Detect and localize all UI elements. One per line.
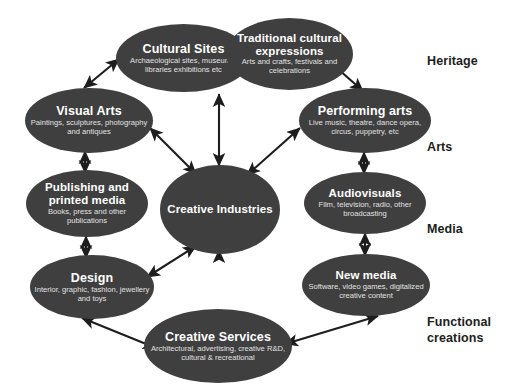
node-traditional-cultural-expressions[interactable]: Traditional cultural expressions Arts an… [226, 18, 353, 90]
category-label-arts: Arts [427, 140, 452, 156]
node-title: Design [71, 271, 113, 285]
node-title: Traditional cultural expressions [226, 32, 353, 58]
node-subtitle: Interior, graphic, fashion, jewellery an… [30, 286, 154, 304]
node-publishing-and-printed-media[interactable]: Publishing and printed media Books, pres… [26, 170, 148, 237]
node-creative-services[interactable]: Creative Services Architectural, adverti… [144, 309, 292, 383]
node-design[interactable]: Design Interior, graphic, fashion, jewel… [30, 255, 154, 319]
node-performing-arts[interactable]: Performing arts Live music, theatre, dan… [299, 88, 431, 153]
node-title: New media [336, 269, 397, 282]
node-title: Creative Services [165, 330, 271, 344]
node-title: Visual Arts [56, 104, 122, 118]
edge-performing-arts-center [247, 128, 300, 175]
node-creative-industries-center[interactable]: Creative Industries [160, 165, 280, 254]
node-title: Cultural Sites [143, 42, 225, 56]
node-title: Audiovisuals [329, 187, 402, 200]
node-title: Performing arts [318, 104, 413, 118]
node-subtitle: Books, press and other publications [26, 208, 148, 226]
node-visual-arts[interactable]: Visual Arts Paintings, sculptures, photo… [25, 88, 153, 153]
edge-new-media-creative-services [285, 316, 378, 344]
edge-visual-arts-cultural-sites [84, 59, 119, 88]
edge-design-center [147, 246, 196, 277]
node-subtitle: Live music, theatre, dance opera, circus… [299, 119, 431, 137]
node-subtitle: Arts and crafts, festivals and celebrati… [226, 58, 353, 76]
node-title: Publishing and printed media [26, 181, 148, 207]
node-audiovisuals[interactable]: Audiovisuals Film, television, radio, ot… [304, 172, 426, 234]
node-subtitle: Architectural, advertising, creative R&D… [144, 345, 292, 363]
node-subtitle: Software, video games, digitalized creat… [302, 283, 430, 301]
node-title: Creative Industries [167, 203, 272, 216]
diagram-canvas: Cultural Sites Archaeological sites, mus… [0, 0, 513, 391]
edge-visual-arts-center [150, 128, 196, 174]
category-label-media: Media [427, 222, 463, 238]
category-label-heritage: Heritage [427, 54, 478, 70]
category-label-functional-creations: Functional creations [427, 315, 491, 346]
node-subtitle: Paintings, sculptures, photography and a… [25, 119, 153, 137]
node-new-media[interactable]: New media Software, video games, digital… [302, 254, 430, 316]
node-subtitle: Film, television, radio, other broadcast… [304, 201, 426, 219]
